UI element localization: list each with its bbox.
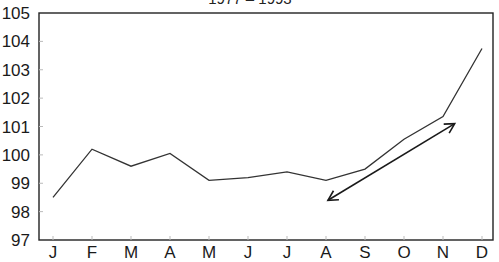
y-tick-label: 102 xyxy=(2,89,30,108)
x-tick-label: D xyxy=(476,243,488,262)
y-tick-label: 99 xyxy=(11,174,30,193)
x-tick-label: M xyxy=(124,243,138,262)
y-tick-label: 98 xyxy=(11,203,30,222)
x-tick-label: O xyxy=(397,243,410,262)
y-tick-label: 97 xyxy=(11,231,30,250)
y-tick-label: 100 xyxy=(2,146,30,165)
y-axis: 979899100101102103104105 xyxy=(2,4,43,250)
x-tick-label: M xyxy=(202,243,216,262)
x-tick-label: S xyxy=(359,243,370,262)
trend-arrow xyxy=(328,124,455,201)
x-tick-label: A xyxy=(320,243,332,262)
y-tick-label: 103 xyxy=(2,61,30,80)
arrow-shaft xyxy=(328,124,455,201)
x-tick-label: A xyxy=(164,243,176,262)
y-tick-label: 101 xyxy=(2,118,30,137)
x-tick-label: J xyxy=(283,243,292,262)
chart-title: 1977 – 1993 xyxy=(208,0,291,7)
y-tick-label: 104 xyxy=(2,32,30,51)
x-tick-label: F xyxy=(87,243,97,262)
line-chart: 1977 – 1993 979899100101102103104105 JFM… xyxy=(0,0,499,262)
y-tick-label: 105 xyxy=(2,4,30,23)
x-tick-label: J xyxy=(49,243,58,262)
x-tick-label: N xyxy=(437,243,449,262)
x-tick-label: J xyxy=(244,243,253,262)
data-line xyxy=(53,49,482,198)
